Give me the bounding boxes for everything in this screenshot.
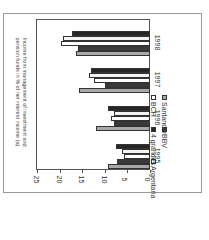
legend-swatch [162,127,167,132]
bar-4-grandes-1998 [72,31,150,36]
legend-swatch [151,127,156,132]
value-tick-mark [105,170,106,173]
legend-item-bch: BCH [150,95,157,117]
legend-item-bbv: BBV [161,127,168,148]
value-tick-mark [127,170,128,173]
bar-santander-1997 [79,88,150,93]
legend-swatch [151,95,156,100]
legend-item-4-grandes: 4 grandes [150,127,157,165]
bar-bch-1997 [94,78,150,83]
value-tick-mark [82,170,83,173]
bar-argentaria-1997 [89,73,150,78]
bar-4-grandes-1997 [91,68,150,73]
value-tick-label: 10 [101,176,108,184]
bar-argentaria-1998 [63,36,150,41]
legend-label: BBV [161,134,168,148]
chart-title: Income from management of investment and… [14,33,28,151]
value-tick-label: 5 [122,178,129,182]
legend-label: 4 grandes [150,134,157,165]
legend: SantanderBBVBCHArgentaria4 grandes [142,95,168,195]
bar-bch-1998 [61,41,150,46]
bar-bbv-1998 [78,46,150,51]
value-tick-label: 25 [33,176,40,184]
value-tick-label: 20 [56,176,63,184]
category-label: 1998 [154,35,161,51]
bar-santander-1998 [76,51,150,56]
legend-swatch [162,95,167,100]
value-tick-mark [37,170,38,173]
legend-label: Argentaria [150,166,157,198]
bar-bbv-1997 [105,83,150,88]
legend-label: BCH [150,102,157,117]
value-tick-label: 15 [79,176,86,184]
category-label: 1997 [154,72,161,88]
value-tick-mark [60,170,61,173]
